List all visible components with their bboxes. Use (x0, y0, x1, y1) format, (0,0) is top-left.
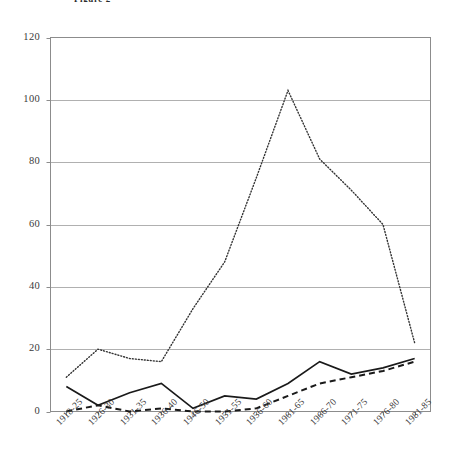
chart-plot-area (0, 0, 451, 467)
y-tick-label: 80 (6, 155, 40, 166)
y-tick-label: 0 (6, 405, 40, 416)
gridlines-group (51, 101, 431, 350)
y-tick-label: 100 (6, 93, 40, 104)
x-tick-marks-group (47, 39, 416, 416)
plot-border (51, 38, 431, 412)
y-tick-label: 20 (6, 342, 40, 353)
y-tick-label: 120 (6, 31, 40, 42)
y-tick-label: 60 (6, 218, 40, 229)
data-series-group (66, 90, 414, 411)
series-line-series-dotted (66, 90, 414, 377)
plot-frame (51, 38, 431, 412)
figure-container: Figure 2 020406080100120 1918-251926-301… (0, 0, 451, 467)
y-tick-label: 40 (6, 280, 40, 291)
